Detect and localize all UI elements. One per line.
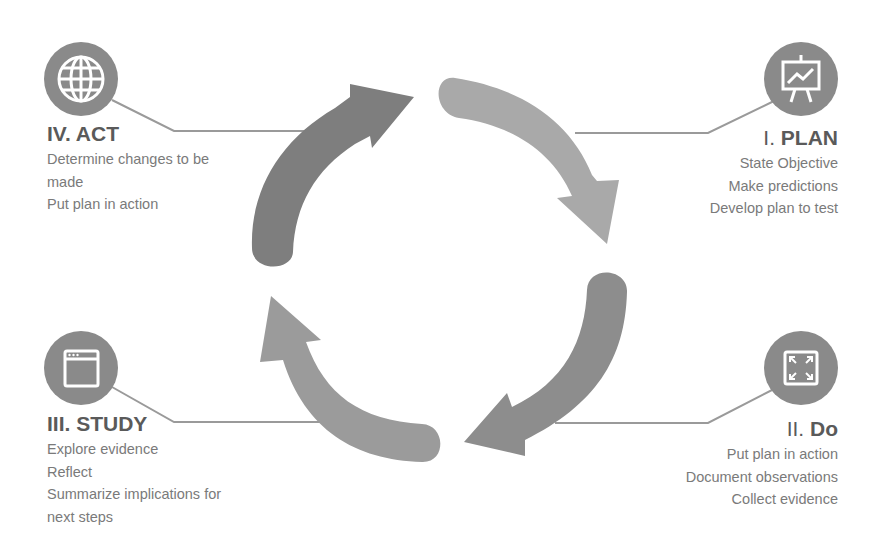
globe-icon <box>44 42 118 116</box>
stage-study-numeral: III. <box>47 412 70 435</box>
stage-act-title: IV. ACT <box>47 122 307 146</box>
stage-study-name: STUDY <box>76 412 147 435</box>
stage-plan-numeral: I. <box>763 126 775 149</box>
stage-plan-item: Make predictions <box>578 175 838 198</box>
stage-study-item: next steps <box>47 506 307 529</box>
stage-study-item: Explore evidence <box>47 438 307 461</box>
stage-act-item: Put plan in action <box>47 193 307 216</box>
stage-act-item: Determine changes to be <box>47 148 307 171</box>
stage-act: IV. ACT Determine changes to be made Put… <box>47 122 307 216</box>
stage-do: II. Do Put plan in action Document obser… <box>578 417 838 511</box>
stage-plan: I. PLAN State Objective Make predictions… <box>578 126 838 220</box>
stage-do-title: II. Do <box>578 417 838 441</box>
stage-study-title: III. STUDY <box>47 412 307 436</box>
browser-window-icon <box>44 331 118 405</box>
stage-study-items: Explore evidence Reflect Summarize impli… <box>47 438 307 528</box>
cycle-arrows <box>252 78 627 462</box>
stage-act-name: ACT <box>76 122 119 145</box>
stage-study-item: Summarize implications for <box>47 483 307 506</box>
stage-act-items: Determine changes to be made Put plan in… <box>47 148 307 216</box>
stage-do-items: Put plan in action Document observations… <box>578 443 838 511</box>
stage-act-item: made <box>47 171 307 194</box>
stage-do-name: Do <box>810 417 838 440</box>
stage-study: III. STUDY Explore evidence Reflect Summ… <box>47 412 307 528</box>
stage-plan-name: PLAN <box>781 126 838 149</box>
expand-arrows-icon <box>764 331 838 405</box>
stage-study-item: Reflect <box>47 461 307 484</box>
stage-plan-title: I. PLAN <box>578 126 838 150</box>
stage-plan-item: State Objective <box>578 152 838 175</box>
stage-do-numeral: II. <box>787 417 805 440</box>
presentation-chart-icon <box>764 42 838 116</box>
stage-do-item: Put plan in action <box>578 443 838 466</box>
stage-do-item: Collect evidence <box>578 488 838 511</box>
stage-plan-items: State Objective Make predictions Develop… <box>578 152 838 220</box>
stage-act-numeral: IV. <box>47 122 71 145</box>
stage-do-item: Document observations <box>578 466 838 489</box>
stage-plan-item: Develop plan to test <box>578 197 838 220</box>
